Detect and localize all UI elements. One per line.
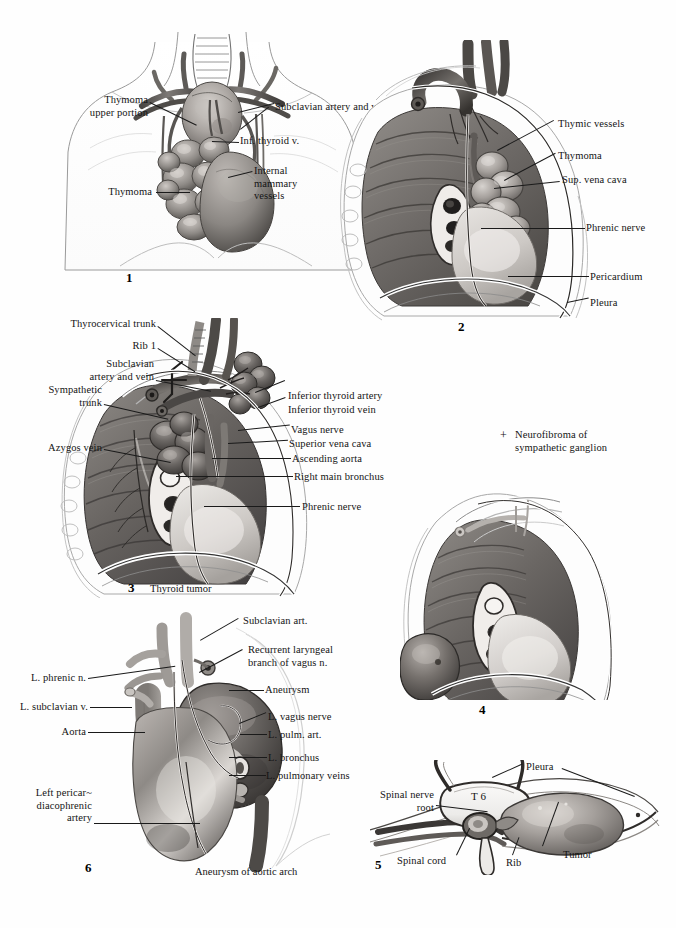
figure-5-number: 5 <box>375 857 382 873</box>
label-f5-tumor: Tumor <box>563 849 592 862</box>
label-f5-spinal-nerve-root: Spinal nerve root <box>366 789 434 814</box>
label-f2-thymoma: Thymoma <box>558 150 602 163</box>
label-f2-sup-vena-cava: Sup. vena cava <box>562 174 627 187</box>
label-f4-neurofibroma-of-sympathetic-ganglion: Neurofibroma of sympathetic ganglion <box>515 429 607 454</box>
label-f5-pleura: Pleura <box>526 761 553 774</box>
label-f1-internal-mammary-vessels: Internal mammary vessels <box>254 165 297 203</box>
figure-2-number: 2 <box>458 319 465 335</box>
label-f3-right-main-bronchus: Right main bronchus <box>294 471 384 484</box>
label-f3-subclavian-artery-and-vein: Subclavian artery and vein <box>22 358 154 383</box>
label-f6-l-vagus-nerve: L. vagus nerve <box>268 711 332 724</box>
label-f6-l-subclavian-v: L. subclavian v. <box>6 701 88 714</box>
label-f3-rib-1: Rib 1 <box>108 340 156 353</box>
label-f1-thymoma: Thymoma <box>96 186 152 199</box>
label-f6-subclavian-art: Subclavian art. <box>243 615 307 628</box>
label-f2-thymic-vessels: Thymic vessels <box>558 118 624 131</box>
label-f1-thymoma-upper-portion: Thymoma upper portion <box>64 94 148 119</box>
plus-marker-icon-f4: + <box>500 428 507 443</box>
label-f1-inf-thyroid-vein: Inf. thyroid v. <box>240 135 299 148</box>
figure-6-number: 6 <box>85 860 92 876</box>
label-f3-azygos-vein: Azygos vein <box>22 442 102 455</box>
label-f2-pericardium: Pericardium <box>590 271 642 284</box>
figure-4-illustration <box>400 450 630 700</box>
figure-1-number: 1 <box>126 270 133 286</box>
label-f6-l-pulmonary-veins: L. pulmonary veins <box>266 770 350 783</box>
label-f6-left-pericardiacophrenic-artery: Left pericar~ diacophrenic artery <box>20 787 92 825</box>
label-f3-inferior-thyroid-artery: Inferior thyroid artery <box>288 390 382 403</box>
label-f6-l-phrenic-n: L. phrenic n. <box>12 672 86 685</box>
anatomical-plate: Thymoma upper portion Subclavian artery … <box>0 0 676 928</box>
label-f6-l-pulm-art: L. pulm. art. <box>268 729 322 742</box>
figure-6-caption: Aneurysm of aortic arch <box>195 866 297 877</box>
figure-3-number: 3 <box>128 580 135 596</box>
label-f6-l-bronchus: L. bronchus <box>268 752 319 765</box>
label-f2-phrenic-nerve: Phrenic nerve <box>586 222 645 235</box>
label-f3-phrenic-nerve: Phrenic nerve <box>302 501 361 514</box>
label-f6-recurrent-laryngeal: Recurrent laryngeal branch of vagus n. <box>248 644 333 669</box>
label-f3-inferior-thyroid-vein: Inferior thyroid vein <box>288 404 376 417</box>
label-f2-pleura: Pleura <box>590 297 617 310</box>
label-f5-rib: Rib <box>506 857 521 870</box>
figure-3-caption: Thyroid tumor <box>150 583 212 594</box>
label-f3-superior-vena-cava: Superior vena cava <box>289 438 371 451</box>
label-f3-thyrocervical-trunk: Thyrocervical trunk <box>56 318 156 331</box>
label-f5-spinal-cord: Spinal cord <box>397 855 446 868</box>
label-f5-vertebra-t6: T 6 <box>471 790 486 803</box>
label-f3-vagus-nerve: Vagus nerve <box>291 424 344 437</box>
label-f3-ascending-aorta: Ascending aorta <box>292 453 362 466</box>
label-f3-sympathetic-trunk: Sympathetic trunk <box>14 384 102 409</box>
label-f6-aorta: Aorta <box>38 726 86 739</box>
figure-1-illustration <box>60 30 370 285</box>
figure-4-number: 4 <box>479 702 486 718</box>
label-f6-aneurysm: Aneurysm <box>265 684 310 697</box>
